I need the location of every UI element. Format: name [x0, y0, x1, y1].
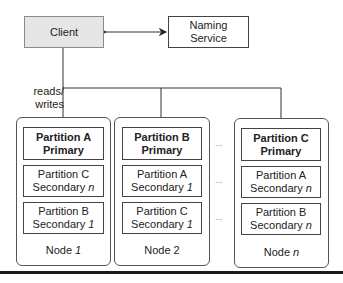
node-2-replica-primary: Partition B Primary: [122, 127, 202, 160]
client-box: Client: [24, 16, 104, 48]
node-n-replica-secondary-1: Partition A Secondary n: [241, 166, 321, 198]
node-1-replica-primary: Partition A Primary: [23, 127, 104, 160]
replica-role-label: Secondary: [250, 219, 303, 231]
reads-writes-label: reads/ writes: [24, 85, 64, 111]
node-2-replica-secondary-1: Partition A Secondary 1: [122, 165, 202, 197]
replica-partition-label: Partition A: [36, 131, 91, 144]
replica-index: n: [306, 182, 312, 194]
replica-partition-label: Partition C: [253, 132, 309, 145]
replica-partition-label: Partition B: [256, 206, 307, 219]
ellipsis-2: ...: [215, 175, 223, 185]
replica-role-label: Secondary: [33, 181, 86, 193]
ellipsis-1: ...: [215, 138, 223, 148]
node-2-replica-secondary-2: Partition C Secondary 1: [122, 202, 202, 234]
node-index: 1: [75, 244, 81, 256]
replica-role-label: Primary: [43, 144, 84, 157]
replica-role-label: Secondary: [131, 218, 184, 230]
replica-index: 1: [88, 218, 94, 230]
node-n-label: Node n: [234, 246, 329, 258]
replica-index: n: [88, 181, 94, 193]
naming-service-box: Naming Service: [168, 16, 249, 48]
naming-service-line1: Naming: [190, 19, 228, 32]
replica-index: 1: [187, 218, 193, 230]
node-n-replica-primary: Partition C Primary: [241, 128, 321, 161]
replica-partition-label: Partition B: [38, 205, 89, 218]
replica-role-label: Primary: [142, 144, 183, 157]
node-1-replica-secondary-2: Partition B Secondary 1: [23, 202, 104, 234]
replica-partition-label: Partition A: [256, 169, 306, 182]
node-n-replica-secondary-2: Partition B Secondary n: [241, 203, 321, 235]
ellipsis-3: ...: [215, 212, 223, 222]
replica-index: n: [306, 219, 312, 231]
writes-label: writes: [24, 98, 64, 111]
node-label-text: Node: [264, 246, 290, 258]
replica-partition-label: Partition B: [134, 131, 190, 144]
replica-role-label: Primary: [261, 145, 302, 158]
node-1-replica-secondary-1: Partition C Secondary n: [23, 165, 104, 197]
node-label-text: Node: [46, 244, 72, 256]
node-1-label: Node 1: [16, 244, 111, 256]
replica-index: 1: [187, 181, 193, 193]
node-label-text: Node: [144, 244, 170, 256]
replica-role-label: Secondary: [250, 182, 303, 194]
replica-role-label: Secondary: [33, 218, 86, 230]
node-index: 2: [174, 244, 180, 256]
naming-service-line2: Service: [190, 32, 227, 45]
replica-partition-label: Partition C: [136, 205, 187, 218]
replica-role-label: Secondary: [131, 181, 184, 193]
node-2-label: Node 2: [114, 244, 210, 256]
node-index: n: [293, 246, 299, 258]
replica-partition-label: Partition C: [38, 168, 89, 181]
replica-partition-label: Partition A: [137, 168, 187, 181]
bottom-rule: [0, 271, 343, 274]
reads-label: reads/: [24, 85, 64, 98]
client-label: Client: [50, 26, 78, 39]
